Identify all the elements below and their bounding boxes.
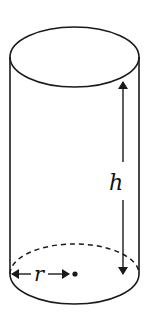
height-label: h [109,170,123,195]
top-ellipse [10,27,139,87]
radius-label: r [34,262,46,286]
center-point [72,271,77,276]
bottom-ellipse-back-dashed [10,244,139,274]
cylinder-diagram: h r [0,0,149,323]
bottom-ellipse-front [10,274,139,304]
